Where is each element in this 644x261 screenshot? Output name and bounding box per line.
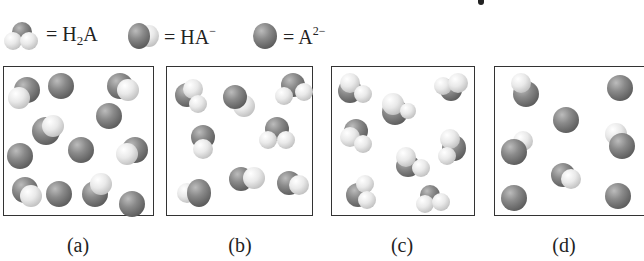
legend-h2a: = H2A <box>4 22 98 50</box>
panel-b <box>166 66 313 216</box>
legend-label-ha-minus: = HA− <box>164 24 216 49</box>
cropped-title-fragment <box>478 0 484 5</box>
h2a-molecule-icon <box>4 22 40 50</box>
a2-minus-ion-icon <box>253 23 277 49</box>
panel-label-a: (a) <box>48 234 108 257</box>
panel-label-b: (b) <box>210 234 270 257</box>
legend-a2-minus: = A2− <box>253 22 325 50</box>
panel-label-d: (d) <box>534 234 594 257</box>
legend-label-a2-minus: = A2− <box>283 24 325 49</box>
panel-c <box>331 66 475 216</box>
panel-a <box>3 66 154 216</box>
legend-label-h2a: = H2A <box>46 23 98 49</box>
panel-label-c: (c) <box>372 234 432 257</box>
legend-ha-minus: = HA− <box>128 22 216 50</box>
ha-minus-molecule-icon <box>128 23 158 49</box>
panel-d <box>494 66 644 216</box>
